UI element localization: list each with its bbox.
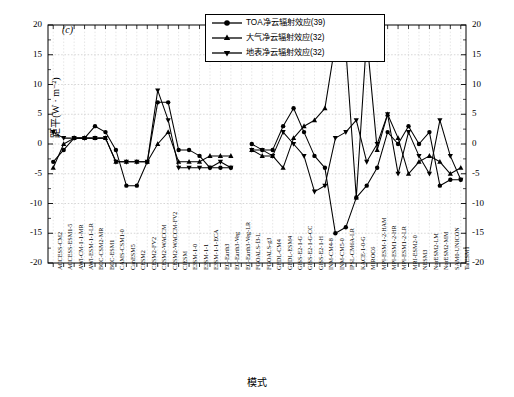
x-tick-label: GFDL-ESM4	[286, 236, 293, 270]
legend-item-toa: TOA净云辐射效应(39)	[206, 16, 384, 30]
y-tick-label: -15	[8, 227, 42, 237]
y-tick-label-right: -5	[472, 168, 506, 178]
y-tick-label: -5	[8, 168, 42, 178]
legend-label-atm: 大气净云辐射效应(32)	[246, 31, 325, 45]
x-tick-label: CESM2-WACCM-FV2	[171, 212, 178, 270]
x-tick-label: E3SM-1-1-ECA	[212, 229, 219, 270]
x-tick-label: BCC-CSM2-MR	[97, 228, 104, 270]
x-tick-label: FGOALS-g3	[265, 238, 272, 270]
x-tick-label: TaiESM1	[463, 246, 470, 270]
x-tick-label: NorESM2-MM	[442, 231, 449, 270]
x-tick-label: SAM0-UNICON	[453, 227, 460, 270]
y-tick-label-right: -10	[472, 198, 506, 208]
x-tick-label: GFDL-CM4	[275, 239, 282, 270]
y-tick-label: 15	[8, 49, 42, 59]
legend-label-toa: TOA净云辐射效应(39)	[246, 16, 325, 30]
x-tick-label: CESM2	[139, 250, 146, 270]
y-tick-label-right: 15	[472, 49, 506, 59]
legend-marker-circle	[210, 16, 244, 30]
x-tick-label: MIROC6	[369, 247, 376, 270]
x-tick-label: EC-Earth3-Veg	[233, 232, 240, 270]
y-tick-label: 0	[8, 138, 42, 148]
x-tick-label: NorESM2-LM	[432, 233, 439, 270]
figure: (c) 距平(W · m⁻²) 模式 ACCESS-CM2ACCESS-ESM1…	[0, 0, 514, 397]
x-tick-label: INM-CM4-8	[327, 238, 334, 270]
y-tick-label: 20	[8, 19, 42, 29]
x-tick-label: E3SM-1-0	[191, 244, 198, 270]
y-tick-label-right: 0	[472, 138, 506, 148]
x-tick-label: E3SM-1-1	[202, 244, 209, 270]
y-tick-label-right: 20	[472, 19, 506, 29]
x-tick-label: EC-Earth3	[223, 244, 230, 270]
legend-item-atm: 大气净云辐射效应(32)	[206, 31, 384, 45]
x-tick-label: EC-Earth3-Veg-LR	[244, 222, 251, 270]
legend: TOA净云辐射效应(39) 大气净云辐射效应(32) 地表净云辐射效应(32)	[205, 14, 385, 62]
x-tick-label: MPI-ESM-1-2-HAM	[380, 217, 387, 270]
x-tick-label: FGOALS-f3-L	[254, 233, 261, 270]
x-tick-label: CESM2-WACCM	[160, 225, 167, 270]
y-tick-label: 5	[8, 108, 42, 118]
y-tick-label-right: 10	[472, 79, 506, 89]
y-tick-label-right: -15	[472, 227, 506, 237]
x-tick-label: CIESM	[181, 251, 188, 270]
y-tick-label-right: 5	[472, 108, 506, 118]
x-tick-label: GISS-E2-1-G	[296, 236, 303, 270]
legend-marker-triangle-up	[210, 31, 244, 45]
x-tick-label: CESM2-FV2	[150, 237, 157, 270]
legend-label-sfc: 地表净云辐射效应(32)	[246, 46, 325, 60]
legend-item-sfc: 地表净云辐射效应(32)	[206, 46, 384, 60]
x-tick-label: MPI-ESM1-2-HR	[390, 225, 397, 270]
x-tick-label: AWI-CM-1-1-MR	[77, 224, 84, 270]
y-tick-label: 10	[8, 79, 42, 89]
x-tick-label: BCC-ESM1	[108, 240, 115, 270]
x-tick-label: GISS-E2-1-H	[317, 236, 324, 270]
legend-marker-triangle-down	[210, 46, 244, 60]
x-tick-label: NESM3	[421, 250, 428, 270]
y-tick-label: -10	[8, 198, 42, 208]
x-tick-label: GISS-E2-1-G-CC	[306, 226, 313, 270]
x-tick-label: MRI-ESM2-0	[411, 235, 418, 270]
y-tick-label: -20	[8, 257, 42, 267]
x-tick-label: IPSL-CM6A-LR	[348, 228, 355, 270]
x-tick-label: INM-CM5-0	[338, 238, 345, 270]
x-tick-label: MPI-ESM1-2-LR	[400, 226, 407, 270]
x-tick-label: CanESM5	[129, 244, 136, 270]
y-tick-label-right: -20	[472, 257, 506, 267]
x-tick-label: CAMS-CSM1-0	[118, 229, 125, 270]
x-tick-label: ACCESS-CM2	[56, 232, 63, 270]
x-tick-label: ACCESS-ESM1-5	[66, 224, 73, 270]
x-tick-label: AWI-ESM-1-1-LR	[87, 223, 94, 270]
x-tick-label: KACE-1-0-G	[359, 236, 366, 270]
